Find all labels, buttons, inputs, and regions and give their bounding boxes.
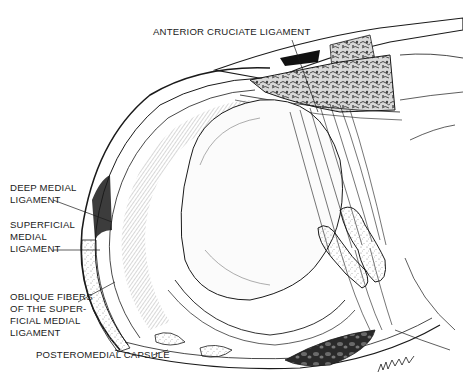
label-anterior-cruciate-ligament: ANTERIOR CRUCIATE LIGAMENT [153, 26, 310, 38]
label-deep-medial-ligament: DEEP MEDIAL LIGAMENT [10, 182, 77, 206]
label-superficial-medial-ligament: SUPERFICIAL MEDIAL LIGAMENT [10, 219, 75, 255]
label-oblique-fibers: OBLIQUE FIBERS OF THE SUPER- FICIAL MEDI… [10, 291, 93, 339]
label-posteromedial-capsule: POSTEROMEDIAL CAPSULE [36, 349, 170, 361]
artist-signature [378, 356, 414, 372]
